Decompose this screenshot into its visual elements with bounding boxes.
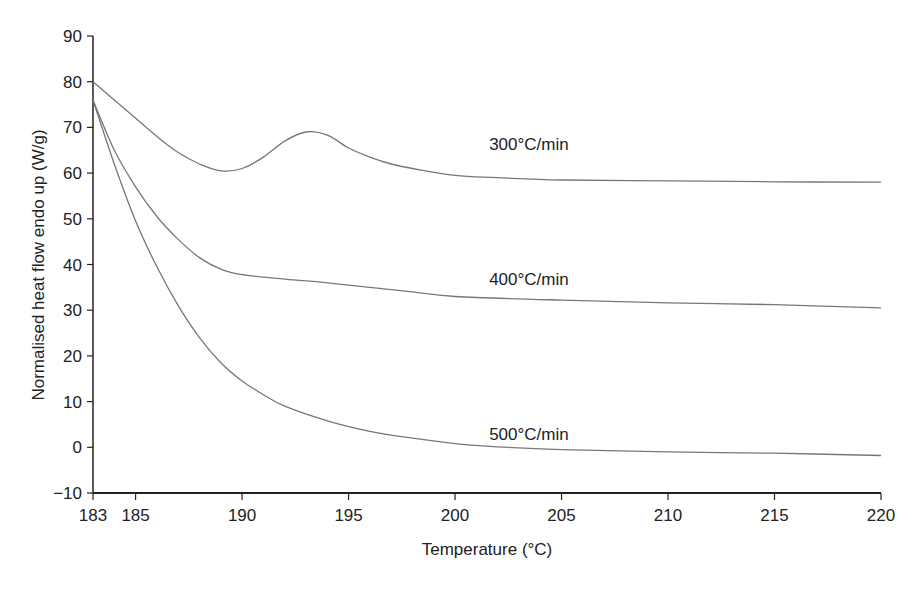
x-tick-label: 220 <box>867 506 895 525</box>
y-axis-title: Normalised heat flow endo up (W/g) <box>29 129 48 400</box>
series-label-400: 400°C/min <box>489 270 569 289</box>
x-tick-label: 200 <box>441 506 469 525</box>
series-group <box>93 82 881 456</box>
x-tick-label: 183 <box>79 506 107 525</box>
series-line-400 <box>93 100 881 308</box>
y-tick-label: 70 <box>63 118 82 137</box>
y-tick-label: 50 <box>63 210 82 229</box>
y-tick-label: 60 <box>63 164 82 183</box>
x-tick-label: 195 <box>334 506 362 525</box>
y-tick-label: 80 <box>63 73 82 92</box>
y-tick-label: 0 <box>73 438 82 457</box>
series-labels: 300°C/min400°C/min500°C/min <box>489 135 569 444</box>
series-line-300 <box>93 82 881 183</box>
y-tick-label: −10 <box>53 484 82 503</box>
x-tick-label: 185 <box>121 506 149 525</box>
y-tick-label: 30 <box>63 301 82 320</box>
series-label-300: 300°C/min <box>489 135 569 154</box>
y-tick-label: 90 <box>63 27 82 46</box>
x-tick-label: 210 <box>654 506 682 525</box>
x-tick-label: 190 <box>228 506 256 525</box>
y-tick-label: 20 <box>63 347 82 366</box>
x-axis-title: Temperature (°C) <box>422 540 553 559</box>
y-tick-label: 10 <box>63 393 82 412</box>
series-label-500: 500°C/min <box>489 425 569 444</box>
x-tick-label: 205 <box>547 506 575 525</box>
x-tick-label: 215 <box>760 506 788 525</box>
y-tick-label: 40 <box>63 256 82 275</box>
axes: −100102030405060708090183185190195200205… <box>53 27 895 525</box>
series-line-500 <box>93 100 881 456</box>
dsc-heat-flow-chart: −100102030405060708090183185190195200205… <box>0 0 924 595</box>
